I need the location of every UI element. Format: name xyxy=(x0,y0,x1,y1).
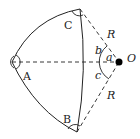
label-a-vertex: A xyxy=(22,70,32,83)
label-r-lower: R xyxy=(106,89,115,102)
label-b-side: b xyxy=(95,44,102,57)
label-r-upper: R xyxy=(106,28,115,41)
arc-ac xyxy=(12,9,80,62)
arc-cb xyxy=(77,9,83,132)
angle-mark-c xyxy=(72,11,83,16)
label-c-side: c xyxy=(95,69,101,82)
label-c-vertex: C xyxy=(64,19,72,32)
spherical-triangle-diagram: A C B O R R b a c xyxy=(0,0,140,139)
center-point-o xyxy=(116,59,123,66)
label-b-vertex: B xyxy=(63,113,71,126)
label-o-center: O xyxy=(127,52,136,65)
label-a-side: a xyxy=(106,51,113,64)
